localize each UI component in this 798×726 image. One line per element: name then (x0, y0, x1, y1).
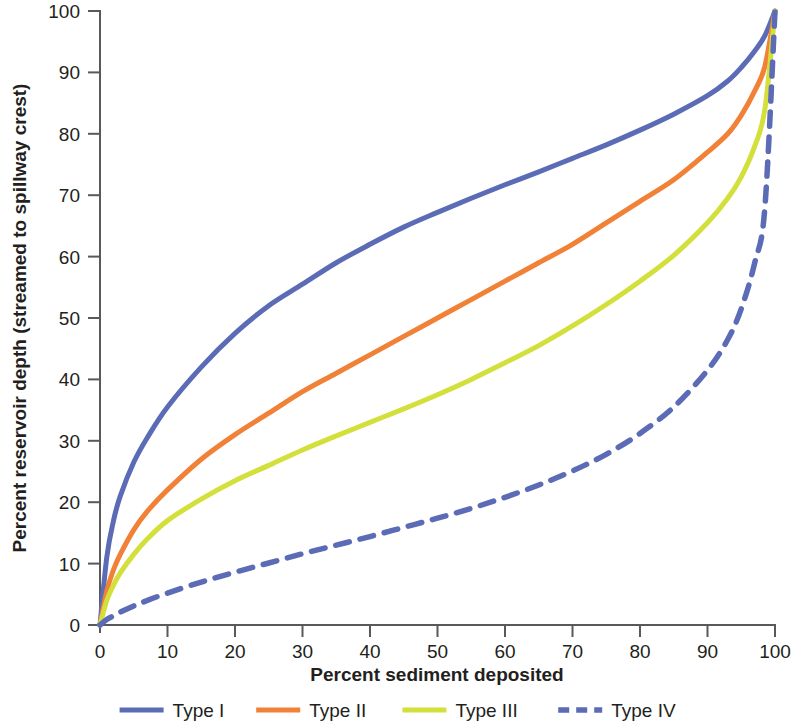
y-tick-label: 0 (69, 615, 80, 636)
y-tick-label: 10 (59, 554, 80, 575)
x-tick-label: 30 (292, 641, 313, 662)
y-tick-label: 30 (59, 431, 80, 452)
x-tick-label: 80 (629, 641, 650, 662)
reservoir-depth-chart: Percent reservoir depth (streamed to spi… (0, 0, 798, 726)
legend-label-type-i[interactable]: Type I (173, 700, 225, 721)
x-tick-label: 100 (759, 641, 791, 662)
y-tick-label: 90 (59, 62, 80, 83)
y-tick-label: 50 (59, 308, 80, 329)
x-axis-ticks: 0102030405060708090100 (95, 617, 791, 662)
y-tick-label: 70 (59, 185, 80, 206)
x-tick-label: 10 (157, 641, 178, 662)
chart-figure: Percent reservoir depth (streamed to spi… (0, 0, 798, 726)
y-tick-label: 40 (59, 369, 80, 390)
x-tick-label: 50 (427, 641, 448, 662)
y-axis-ticks: 0102030405060708090100 (48, 1, 100, 636)
series-curves (100, 11, 775, 625)
x-tick-label: 0 (95, 641, 106, 662)
legend-label-type-iii[interactable]: Type III (455, 700, 517, 721)
legend-label-type-ii[interactable]: Type II (309, 700, 366, 721)
x-axis-title: Percent sediment deposited (310, 664, 563, 685)
chart-legend: Type IType IIType IIIType IV (120, 700, 676, 721)
x-tick-label: 40 (359, 641, 380, 662)
series-line-type-ii (100, 11, 775, 625)
x-tick-label: 60 (494, 641, 515, 662)
y-axis-title: Percent reservoir depth (streamed to spi… (9, 84, 30, 553)
legend-label-type-iv[interactable]: Type IV (611, 700, 676, 721)
x-tick-label: 90 (697, 641, 718, 662)
y-tick-label: 60 (59, 247, 80, 268)
y-tick-label: 100 (48, 1, 80, 22)
x-tick-label: 70 (562, 641, 583, 662)
y-tick-label: 80 (59, 124, 80, 145)
y-tick-label: 20 (59, 492, 80, 513)
x-tick-label: 20 (224, 641, 245, 662)
